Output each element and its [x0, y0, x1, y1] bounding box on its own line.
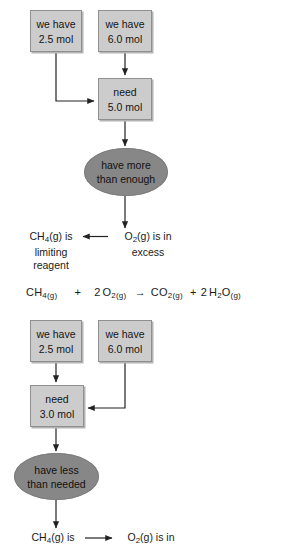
- eq-coefficient2: 2: [94, 286, 100, 298]
- top-have-left-line2: 2.5 mol: [39, 32, 73, 46]
- top-conclusion-excess: O2(g) is in excess: [112, 230, 184, 259]
- bottom-need-box: need 3.0 mol: [30, 385, 84, 427]
- bottom-have-left-line1: we have: [36, 327, 75, 341]
- bottom-have-left-line2: 2.5 mol: [39, 342, 73, 356]
- top-have-left-box: we have 2.5 mol: [30, 10, 82, 52]
- chemical-equation: CH4(g) +2O2(g) →CO2(g) +2H2O(g): [26, 286, 241, 300]
- bottom-have-left-box: we have 2.5 mol: [30, 320, 82, 362]
- top-need-box: need 5.0 mol: [98, 78, 152, 120]
- top-conclusion-excess-line2: excess: [112, 246, 184, 259]
- bottom-have-right-line2: 6.0 mol: [108, 342, 142, 356]
- wire-top-have-left-to-need: [56, 52, 94, 101]
- wire-bottom-have-right-to-need: [88, 362, 125, 408]
- top-conclusion-excess-line1: O2(g) is in: [112, 230, 184, 246]
- eq-reactant1: CH4(g): [26, 286, 57, 298]
- bottom-verdict-line2: than needed: [27, 477, 85, 491]
- top-conclusion-limiting-line2: limiting: [18, 246, 84, 259]
- flowchart-canvas: we have 2.5 mol we have 6.0 mol need 5.0…: [0, 0, 286, 547]
- bottom-need-line2: 3.0 mol: [40, 407, 74, 421]
- eq-product2: H2O(g): [209, 286, 241, 298]
- top-have-right-line1: we have: [105, 17, 144, 31]
- bottom-have-right-line1: we have: [105, 327, 144, 341]
- bottom-conclusion-limiting: CH4(g) is: [22, 531, 84, 547]
- top-have-right-box: we have 6.0 mol: [98, 10, 152, 52]
- eq-plus2: +: [190, 286, 197, 298]
- bottom-have-right-box: we have 6.0 mol: [98, 320, 152, 362]
- eq-coefficient4: 2: [201, 286, 207, 298]
- eq-plus1: +: [75, 286, 82, 298]
- bottom-conclusion-excess: O2(g) is in: [114, 531, 188, 547]
- top-verdict-ellipse: have more than enough: [84, 148, 168, 196]
- top-have-left-line1: we have: [36, 17, 75, 31]
- top-need-line1: need: [113, 85, 136, 99]
- bottom-need-line1: need: [45, 392, 68, 406]
- top-conclusion-limiting-line3: reagent: [18, 259, 84, 272]
- bottom-conclusion-excess-line1: O2(g) is in: [114, 531, 188, 547]
- top-verdict-line2: than enough: [97, 172, 155, 186]
- bottom-verdict-ellipse: have less than needed: [14, 453, 99, 500]
- top-conclusion-limiting: CH4(g) is limiting reagent: [18, 230, 84, 272]
- top-have-right-line2: 6.0 mol: [108, 32, 142, 46]
- eq-reactant2: O2(g): [103, 286, 127, 298]
- top-need-line2: 5.0 mol: [108, 100, 142, 114]
- eq-product1: CO2(g): [151, 286, 183, 298]
- eq-arrow: →: [135, 286, 146, 298]
- top-verdict-line1: have more: [101, 158, 151, 172]
- top-conclusion-limiting-line1: CH4(g) is: [18, 230, 84, 246]
- bottom-conclusion-limiting-line1: CH4(g) is: [22, 531, 84, 547]
- bottom-verdict-line1: have less: [34, 463, 78, 477]
